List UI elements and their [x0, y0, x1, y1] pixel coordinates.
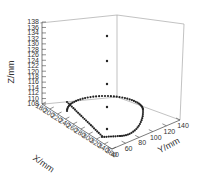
data-point [75, 110, 77, 112]
data-point [87, 121, 89, 123]
data-point [74, 109, 76, 111]
data-point [106, 60, 108, 62]
svg-text:40: 40 [111, 151, 119, 158]
data-point [121, 135, 123, 137]
data-point [91, 126, 93, 128]
data-point [98, 95, 100, 97]
data-point [141, 117, 143, 119]
data-point [127, 134, 129, 136]
data-point [110, 95, 112, 97]
data-point [75, 100, 77, 102]
data-point [108, 136, 110, 138]
data-point [93, 127, 95, 129]
data-point [101, 136, 103, 138]
data-point [142, 115, 144, 117]
svg-text:120: 120 [164, 128, 176, 135]
data-point [106, 83, 108, 85]
data-point [106, 35, 108, 37]
svg-text:80: 80 [138, 139, 146, 146]
axis-lines [42, 22, 180, 149]
data-point [79, 113, 81, 115]
data-point [106, 106, 108, 108]
data-point [95, 129, 97, 131]
z-axis-label: Z/mm [6, 61, 16, 84]
data-point [72, 107, 74, 109]
data-point [118, 96, 120, 98]
data-point [85, 119, 87, 121]
data-point [110, 135, 112, 137]
data-point [131, 99, 133, 101]
data-point [96, 130, 98, 132]
data-point [92, 96, 94, 98]
data-point [104, 95, 106, 97]
x-axis-label: X/mm [31, 153, 56, 175]
data-point [103, 136, 105, 138]
data-point [79, 98, 81, 100]
data-point [77, 99, 79, 101]
data-point [124, 97, 126, 99]
data-point [83, 118, 85, 120]
data-point [117, 135, 119, 137]
z-axis-ticks: 1081101121141161181201221241261281301321… [27, 18, 46, 107]
data-point [126, 98, 128, 100]
data-point [121, 96, 123, 98]
data-point [105, 136, 107, 138]
data-point [119, 135, 121, 137]
data-point [113, 95, 115, 97]
data-point [89, 96, 91, 98]
data-point [142, 109, 144, 111]
svg-text:100: 100 [150, 134, 162, 141]
data-point [142, 113, 144, 115]
data-point [114, 135, 116, 137]
data-point [125, 134, 127, 136]
data-point [82, 116, 84, 118]
data-point [71, 106, 73, 108]
data-points [66, 35, 144, 138]
data-point [112, 135, 114, 137]
data-point [141, 119, 143, 121]
data-point [77, 112, 79, 114]
data-point [129, 98, 131, 100]
data-point [88, 123, 90, 125]
data-point [90, 124, 92, 126]
data-point [80, 115, 82, 117]
svg-text:60: 60 [125, 145, 133, 152]
data-point [99, 133, 101, 135]
svg-text:138: 138 [27, 18, 39, 25]
data-point [95, 95, 97, 97]
data-point [101, 95, 103, 97]
svg-text:140: 140 [177, 122, 189, 129]
data-point [66, 101, 68, 103]
data-point [142, 111, 144, 113]
data-point [106, 128, 108, 130]
data-point [116, 96, 118, 98]
data-point [82, 98, 84, 100]
data-point [123, 135, 125, 137]
scatter3d-plot: 1081101121141161181201221241261281301321… [0, 0, 202, 176]
data-point [87, 96, 89, 98]
data-point [107, 95, 109, 97]
data-point [84, 97, 86, 99]
axes-box [40, 15, 184, 120]
data-point [140, 121, 142, 123]
data-point [98, 132, 100, 134]
